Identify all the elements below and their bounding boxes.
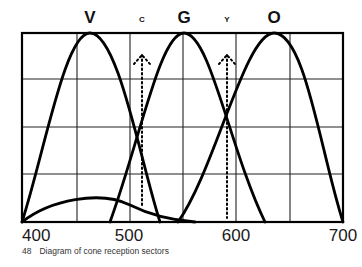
label-c: C (139, 15, 145, 24)
label-y: Y (224, 15, 229, 24)
x-tick-600: 600 (222, 226, 250, 246)
cone-reception-diagram: V C G Y O 400 500 600 700 48Diagram of c… (0, 0, 362, 267)
x-tick-700: 700 (329, 226, 357, 246)
x-tick-400: 400 (22, 226, 50, 246)
grid (22, 33, 343, 222)
label-g: G (177, 8, 190, 28)
figure-number: 48 (22, 246, 31, 256)
figure-caption: 48Diagram of cone reception sectors (22, 246, 169, 256)
curve-low-hump (22, 198, 195, 222)
label-o: O (267, 8, 280, 28)
x-tick-500: 500 (115, 226, 143, 246)
caption-text: Diagram of cone reception sectors (39, 246, 168, 256)
label-v: V (84, 8, 95, 28)
diagram-plot (0, 0, 362, 267)
